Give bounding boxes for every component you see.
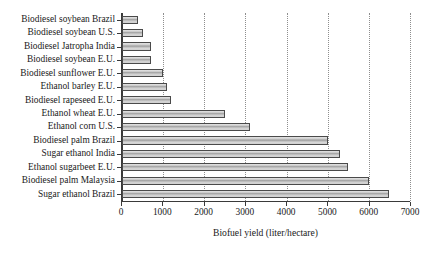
category-label: Sugar ethanol Brazil (0, 188, 118, 201)
category-label: Ethanol corn U.S. (0, 120, 118, 133)
category-label: Biodiesel sunflower E.U. (0, 67, 118, 80)
value-axis-tick (121, 202, 122, 206)
category-label: Ethanol wheat E.U. (0, 107, 118, 120)
bar-row (122, 188, 410, 201)
value-axis-tick-label: 1000 (153, 207, 172, 217)
value-axis-tick-label: 3000 (235, 207, 254, 217)
value-axis-tick-label: 0 (119, 207, 124, 217)
category-label: Biodiesel soybean Brazil (0, 13, 118, 26)
bar-row (122, 94, 410, 107)
value-axis-tick-label: 6000 (359, 207, 378, 217)
bar (122, 96, 171, 104)
bar (122, 56, 151, 64)
bar (122, 136, 328, 144)
category-label: Biodiesel soybean U.S. (0, 26, 118, 39)
value-axis-tick-label: 4000 (277, 207, 296, 217)
bar-row (122, 80, 410, 93)
value-axis-tick-label: 2000 (194, 207, 213, 217)
bar (122, 42, 151, 50)
category-label: Biodiesel palm Malaysia (0, 174, 118, 187)
bar-row (122, 120, 410, 133)
value-axis-title: Biofuel yield (liter/hectare) (121, 227, 410, 238)
bar (122, 69, 163, 77)
bar-row (122, 13, 410, 26)
biofuel-yield-bar-chart: Biodiesel soybean BrazilBiodiesel soybea… (0, 0, 441, 258)
bar (122, 16, 138, 24)
value-axis-tick-label: 5000 (318, 207, 337, 217)
value-axis-tick (245, 202, 246, 206)
value-axis-tick (204, 202, 205, 206)
bar-row (122, 134, 410, 147)
bar-row (122, 174, 410, 187)
category-label: Biodiesel rapeseed E.U. (0, 94, 118, 107)
bar (122, 83, 167, 91)
category-label: Ethanol sugarbeet E.U. (0, 161, 118, 174)
bar (122, 110, 225, 118)
category-label: Biodiesel palm Brazil (0, 134, 118, 147)
value-axis: 01000200030004000500060007000 (121, 201, 410, 202)
value-axis-tick (410, 202, 411, 206)
bar-row (122, 107, 410, 120)
bar (122, 123, 250, 131)
bar (122, 29, 143, 37)
bar (122, 150, 340, 158)
value-axis-tick (286, 202, 287, 206)
value-axis-tick (369, 202, 370, 206)
category-axis-labels: Biodiesel soybean BrazilBiodiesel soybea… (0, 13, 118, 201)
category-label: Sugar ethanol India (0, 147, 118, 160)
bar-row (122, 40, 410, 53)
value-axis-tick-label: 7000 (401, 207, 420, 217)
category-label: Biodiesel Jatropha India (0, 40, 118, 53)
bar-row (122, 161, 410, 174)
value-axis-tick (162, 202, 163, 206)
bar (122, 177, 369, 185)
category-label: Ethanol barley E.U. (0, 80, 118, 93)
bar-row (122, 147, 410, 160)
bar-series (122, 13, 410, 201)
plot-area (121, 13, 410, 201)
bar-row (122, 53, 410, 66)
value-axis-tick (327, 202, 328, 206)
bar (122, 163, 348, 171)
category-label: Biodiesel soybean E.U. (0, 53, 118, 66)
bar-row (122, 26, 410, 39)
gridline (410, 13, 411, 201)
bar (122, 190, 389, 198)
bar-row (122, 67, 410, 80)
